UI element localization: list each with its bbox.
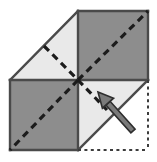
- paper-folding-figure: [0, 0, 157, 162]
- figure-canvas: [0, 0, 157, 162]
